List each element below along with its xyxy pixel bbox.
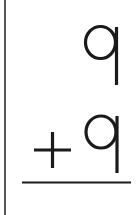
top-number-digit: [86, 27, 117, 86]
bottom-number-digit: [86, 116, 117, 173]
addition-problem: [0, 0, 137, 215]
plus-sign: [34, 132, 71, 168]
